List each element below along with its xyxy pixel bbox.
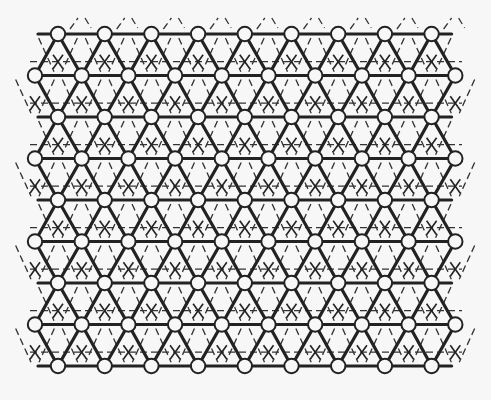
- dashed-diagonal: [365, 18, 371, 28]
- lattice-node: [261, 234, 275, 248]
- lattice-node: [355, 151, 369, 165]
- lattice-node: [98, 27, 112, 41]
- lattice-node: [448, 234, 462, 248]
- lattice-node: [168, 317, 182, 331]
- lattice-node: [284, 27, 298, 41]
- lattice-node: [215, 68, 229, 82]
- lattice-node: [144, 193, 158, 207]
- lattice-node: [424, 193, 438, 207]
- lattice-node: [168, 234, 182, 248]
- lattice-node: [378, 359, 392, 373]
- dashed-diagonal: [210, 18, 218, 29]
- lattice-node: [378, 110, 392, 124]
- lattice-node: [98, 359, 112, 373]
- dashed-diagonal: [178, 18, 184, 28]
- lattice-node: [448, 68, 462, 82]
- lattice-node: [238, 359, 252, 373]
- dashed-diagonal: [304, 18, 312, 29]
- lattice-node: [448, 317, 462, 331]
- lattice-node: [28, 317, 42, 331]
- dashed-diagonal: [225, 18, 231, 28]
- lattice-node: [28, 234, 42, 248]
- lattice-node: [378, 276, 392, 290]
- lattice-node: [191, 110, 205, 124]
- lattice-node: [284, 110, 298, 124]
- lattice-node: [51, 276, 65, 290]
- lattice-node: [424, 110, 438, 124]
- dashed-diagonal: [397, 18, 405, 29]
- dashed-diagonal: [163, 18, 171, 29]
- dashed-diagonal: [459, 329, 474, 363]
- lattice-node: [331, 276, 345, 290]
- lattice-node: [75, 151, 89, 165]
- lattice-node: [238, 276, 252, 290]
- dashed-diagonal: [272, 18, 278, 28]
- lattice-node: [331, 193, 345, 207]
- kagome-lattice-diagram: [0, 0, 491, 400]
- dashed-diagonal: [459, 80, 474, 114]
- lattice-node: [121, 68, 135, 82]
- lattice-node: [144, 110, 158, 124]
- dashed-diagonal: [459, 18, 465, 28]
- lattice-node: [424, 359, 438, 373]
- lattice-node: [98, 110, 112, 124]
- lattice-node: [331, 110, 345, 124]
- lattice-node: [238, 193, 252, 207]
- lattice-node: [168, 151, 182, 165]
- dashed-diagonal: [257, 18, 265, 29]
- lattice-node: [355, 68, 369, 82]
- lattice-node: [424, 276, 438, 290]
- dashed-diagonal: [16, 246, 31, 280]
- lattice-node: [401, 151, 415, 165]
- lattice-node: [168, 68, 182, 82]
- lattice-node: [215, 151, 229, 165]
- lattice-node: [355, 234, 369, 248]
- lattice-node: [51, 359, 65, 373]
- lattice-node: [98, 276, 112, 290]
- dashed-diagonal: [85, 18, 91, 28]
- dashed-diagonal: [444, 18, 452, 29]
- lattice-node: [28, 68, 42, 82]
- lattice-node: [191, 27, 205, 41]
- lattice-node: [215, 317, 229, 331]
- lattice-node: [51, 27, 65, 41]
- lattice-node: [284, 193, 298, 207]
- lattice-node: [144, 27, 158, 41]
- dashed-diagonal: [70, 18, 78, 29]
- dashed-diagonal: [16, 80, 31, 114]
- lattice-node: [215, 234, 229, 248]
- lattice-node: [308, 68, 322, 82]
- lattice-node: [28, 151, 42, 165]
- lattice-node: [401, 68, 415, 82]
- dashed-diagonal: [132, 18, 138, 28]
- lattice-node: [75, 234, 89, 248]
- dashed-diagonal: [117, 18, 125, 29]
- lattice-node: [331, 27, 345, 41]
- lattice-node: [191, 359, 205, 373]
- lattice-node: [331, 359, 345, 373]
- lattice-node: [308, 234, 322, 248]
- lattice-node: [424, 27, 438, 41]
- lattice-node: [191, 276, 205, 290]
- lattice-node: [75, 68, 89, 82]
- lattice-node: [121, 151, 135, 165]
- lattice-node: [191, 193, 205, 207]
- lattice-node: [401, 317, 415, 331]
- lattice-node: [75, 317, 89, 331]
- lattice-node: [261, 151, 275, 165]
- lattice-node: [261, 317, 275, 331]
- lattice-node: [284, 359, 298, 373]
- lattice-node: [144, 359, 158, 373]
- lattice-node: [238, 110, 252, 124]
- lattice-node: [308, 151, 322, 165]
- lattice-node: [51, 193, 65, 207]
- lattice-node: [355, 317, 369, 331]
- lattice-node: [261, 68, 275, 82]
- lattice-node: [378, 27, 392, 41]
- lattice-node: [98, 193, 112, 207]
- lattice-node: [121, 234, 135, 248]
- lattice-node: [238, 27, 252, 41]
- lattice-node: [401, 234, 415, 248]
- dashed-diagonal: [350, 18, 358, 29]
- lattice-node: [51, 110, 65, 124]
